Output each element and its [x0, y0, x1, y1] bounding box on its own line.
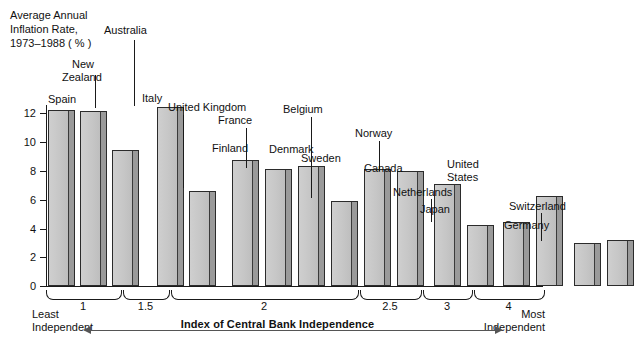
bar-france	[265, 169, 292, 286]
direction-arrow-line	[90, 330, 495, 331]
y-tick-label-6: 6	[16, 195, 36, 206]
least-independent-line1: Least	[32, 308, 93, 321]
bar-belgium	[331, 201, 358, 286]
label-australia: Australia	[104, 24, 147, 36]
y-tick-label-10: 10	[16, 137, 36, 148]
bar-spain	[48, 110, 75, 286]
leader-australia	[134, 40, 135, 106]
y-axis-title-line3: 1973–1988 ( % )	[10, 36, 91, 50]
label-japan: Japan	[420, 203, 450, 215]
bar-switzerland	[574, 243, 601, 286]
arrow-left-icon	[83, 326, 91, 334]
bracket-group-3	[423, 290, 473, 300]
y-axis-title-line1: Average Annual	[10, 8, 91, 22]
y-tick-label-8: 8	[16, 166, 36, 177]
bar-japan	[503, 222, 530, 286]
most-independent-line1: Most	[484, 308, 545, 321]
bracket-group-2_5	[360, 290, 422, 300]
bracket-group-1	[46, 290, 122, 300]
label-new-zealand-line1: New	[72, 58, 94, 70]
label-finland: Finland	[212, 142, 248, 154]
bar-australia	[112, 150, 139, 286]
y-tick-label-4: 4	[16, 224, 36, 235]
label-netherlands: Netherlands	[393, 186, 452, 198]
bracket-group-4	[474, 290, 545, 300]
bracket-label-2_5: 2.5	[360, 300, 420, 312]
label-new-zealand-line2: Zealand	[62, 71, 102, 83]
plot-area	[46, 105, 543, 286]
bar-italy	[157, 107, 184, 286]
y-tick-0	[40, 286, 46, 287]
y-tick-label-12: 12	[16, 108, 36, 119]
y-axis-title-line2: Inflation Rate,	[10, 22, 91, 36]
bar-finland	[232, 160, 259, 286]
bar-netherlands	[467, 225, 494, 286]
bar-canada	[434, 184, 461, 286]
label-united-states-line2: States	[447, 171, 478, 183]
bracket-group-1_5	[123, 290, 170, 300]
bar-united-kingdom	[189, 191, 216, 286]
label-united-states-line1: United	[447, 158, 479, 170]
bracket-label-3: 3	[423, 300, 471, 312]
label-italy: Italy	[142, 92, 162, 104]
leader-united-kingdom	[183, 115, 184, 188]
y-tick-label-2: 2	[16, 252, 36, 263]
x-axis-line	[46, 286, 543, 287]
label-united-kingdom: United Kingdom	[168, 101, 246, 113]
bracket-label-2: 2	[171, 300, 357, 312]
label-france: France	[218, 114, 252, 126]
label-sweden: Sweden	[301, 152, 341, 164]
label-belgium: Belgium	[283, 103, 323, 115]
label-norway: Norway	[355, 127, 392, 139]
x-axis-brackets: 1 1.5 2 2.5 3 4	[0, 288, 555, 306]
arrow-right-icon	[495, 326, 503, 334]
bar-sweden	[364, 169, 391, 286]
label-switzerland: Switzerland	[509, 200, 566, 212]
bracket-group-2	[171, 290, 359, 300]
most-independent-line2: Independent	[484, 321, 545, 334]
bracket-label-1_5: 1.5	[123, 300, 168, 312]
bar-new-zealand	[80, 111, 107, 286]
bar-germany	[607, 240, 634, 286]
label-spain: Spain	[48, 93, 76, 105]
y-axis-title: Average Annual Inflation Rate, 1973–1988…	[10, 8, 91, 50]
label-canada: Canada	[364, 162, 403, 174]
label-germany: Germany	[504, 219, 549, 231]
